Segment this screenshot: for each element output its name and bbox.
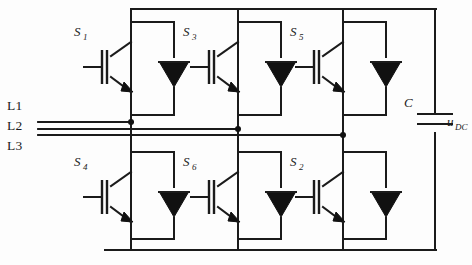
switch-label-S6-sub: 6 <box>192 162 197 172</box>
leg2-lower-igbt-collector-diagonal <box>218 172 238 186</box>
phase-node-L2 <box>235 126 241 132</box>
leg3-upper-igbt-collector-diagonal <box>323 42 343 56</box>
switch-label-S1-sub: 1 <box>83 32 88 42</box>
switch-label-S6: S <box>183 154 190 169</box>
leg3-upper-diode-triangle <box>372 63 400 87</box>
circuit-svg: L1 L2 L3 S 1 S 3 S 5 S 4 S 6 S 2 C u DC <box>0 0 472 265</box>
leg2-lower-diode-triangle <box>267 193 295 217</box>
switch-label-S4-sub: 4 <box>83 162 88 172</box>
phase-node-L1 <box>128 119 134 125</box>
switch-labels-lower: S 4 S 6 S 2 <box>74 154 304 172</box>
switch-label-S5: S <box>290 24 297 39</box>
leg1-lower-diode-triangle <box>160 193 188 217</box>
capacitor-voltage-label: u <box>447 114 454 129</box>
switch-labels-upper: S 1 S 3 S 5 <box>74 24 304 42</box>
phase-labels: L1 L2 L3 <box>7 98 23 153</box>
phase-label-L1: L1 <box>7 98 23 113</box>
phase-node-L3 <box>340 132 346 138</box>
phase-label-L3: L3 <box>7 138 23 153</box>
ac-phase-lines <box>38 119 346 138</box>
switch-label-S5-sub: 5 <box>299 32 304 42</box>
switch-label-S1: S <box>74 24 81 39</box>
switch-label-S2-sub: 2 <box>299 162 304 172</box>
inverter-schematic: L1 L2 L3 S 1 S 3 S 5 S 4 S 6 S 2 C u DC <box>0 0 472 265</box>
switch-label-S3: S <box>183 24 190 39</box>
leg3-lower-igbt-collector-diagonal <box>323 172 343 186</box>
switch-label-S4: S <box>74 154 81 169</box>
leg1-lower-igbt-collector-diagonal <box>111 172 131 186</box>
switch-label-S2: S <box>290 154 297 169</box>
capacitor-voltage-sub: DC <box>454 122 468 132</box>
leg2-upper-diode-triangle <box>267 63 295 87</box>
capacitor-label-C: C <box>404 95 413 110</box>
switch-label-S3-sub: 3 <box>191 32 197 42</box>
leg1-upper-igbt-collector-diagonal <box>111 42 131 56</box>
phase-label-L2: L2 <box>7 118 23 133</box>
inverter-leg-3 <box>296 9 401 250</box>
leg2-upper-igbt-collector-diagonal <box>218 42 238 56</box>
leg3-lower-diode-triangle <box>372 193 400 217</box>
leg1-upper-diode-triangle <box>160 63 188 87</box>
